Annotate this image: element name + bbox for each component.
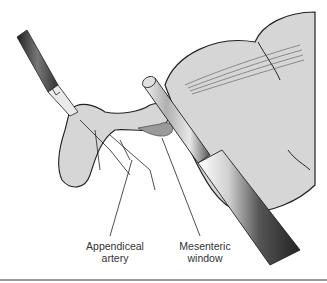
label-line: window <box>172 252 238 264</box>
label-appendiceal-artery: Appendiceal artery <box>80 240 150 264</box>
grasper-instrument <box>17 30 78 116</box>
label-line: Appendiceal <box>80 240 150 252</box>
leader-line-appendiceal-artery <box>110 160 132 236</box>
bottom-divider <box>0 279 327 281</box>
label-mesenteric-window: Mesenteric window <box>172 240 238 264</box>
appendix <box>59 104 173 190</box>
surgical-illustration <box>0 0 327 283</box>
label-line: artery <box>80 252 150 264</box>
label-line: Mesenteric <box>172 240 238 252</box>
